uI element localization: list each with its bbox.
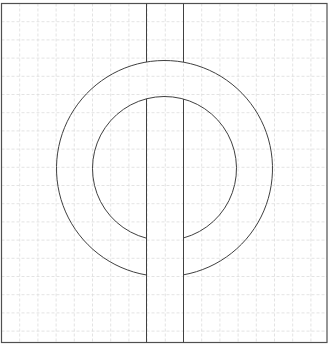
frame-border	[2, 4, 328, 343]
ring-with-band-outline	[57, 4, 273, 343]
grid-lines	[2, 4, 328, 343]
geometry-diagram	[0, 0, 329, 351]
